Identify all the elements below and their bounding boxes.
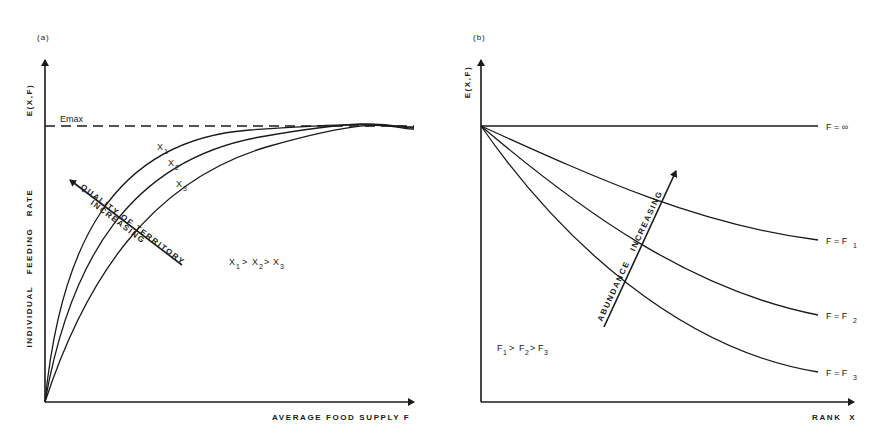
panel-a-xlabel: AVERAGE FOOD SUPPLY F — [272, 413, 410, 422]
svg-text:2: 2 — [175, 164, 179, 171]
curve-label-f2: F = F 2 — [826, 311, 857, 324]
panel-b-xlabel: RANK X — [812, 413, 856, 422]
svg-text:X: X — [229, 257, 235, 267]
svg-text:1: 1 — [853, 242, 857, 249]
emax-label: Emax — [60, 114, 84, 124]
svg-text:F = ∞: F = ∞ — [826, 122, 848, 132]
svg-text:X: X — [176, 179, 182, 189]
curve-label-x3: X 3 — [176, 179, 187, 192]
panel-b-relation: F 1 > F 2 > F 3 — [497, 343, 548, 356]
svg-text:2: 2 — [259, 263, 263, 270]
svg-text:X: X — [157, 142, 163, 152]
svg-text:X: X — [168, 158, 174, 168]
panel-b-ylabel-top: E(X,F) — [463, 66, 472, 99]
svg-text:1: 1 — [503, 349, 507, 356]
svg-text:3: 3 — [280, 263, 284, 270]
svg-text:3: 3 — [183, 185, 187, 192]
svg-text:2: 2 — [853, 317, 857, 324]
curve-label-f-infinity: F = ∞ — [826, 122, 848, 132]
panel-a-relation: X 1 > X 2 > X 3 — [229, 257, 284, 270]
svg-text:>: > — [509, 343, 514, 353]
panel-a-tag: (a) — [37, 33, 50, 42]
svg-text:F = F: F = F — [826, 236, 848, 246]
svg-text:X: X — [273, 257, 279, 267]
svg-text:1: 1 — [164, 148, 168, 155]
panel-a-ylabel-top: E(X,F) — [25, 84, 34, 117]
panel-a-ylabel: INDIVIDUAL FEEDING RATE — [25, 189, 34, 348]
svg-text:F = F: F = F — [826, 311, 848, 321]
curve-label-x1: X 1 — [157, 142, 168, 155]
panel-b: (b) E(X,F) RANK X F = ∞ F = F 1 F = F 2 … — [463, 33, 857, 422]
svg-text:>: > — [530, 343, 535, 353]
svg-text:3: 3 — [853, 374, 857, 381]
curve-label-f1: F = F 1 — [826, 236, 857, 249]
svg-text:F = F: F = F — [826, 368, 848, 378]
curve-label-f3: F = F 3 — [826, 368, 857, 381]
figure: (a) E(X,F) INDIVIDUAL FEEDING RATE AVERA… — [0, 0, 876, 438]
increasing-text: INCREASING — [89, 198, 147, 245]
panel-b-tag: (b) — [473, 33, 486, 42]
panel-a: (a) E(X,F) INDIVIDUAL FEEDING RATE AVERA… — [25, 33, 414, 422]
svg-text:>: > — [242, 257, 247, 267]
svg-text:>: > — [264, 257, 269, 267]
svg-text:X: X — [252, 257, 258, 267]
svg-text:1: 1 — [236, 263, 240, 270]
quality-text: QUALITY OF TERRITORY — [79, 182, 187, 266]
svg-text:2: 2 — [525, 349, 529, 356]
svg-text:3: 3 — [544, 349, 548, 356]
